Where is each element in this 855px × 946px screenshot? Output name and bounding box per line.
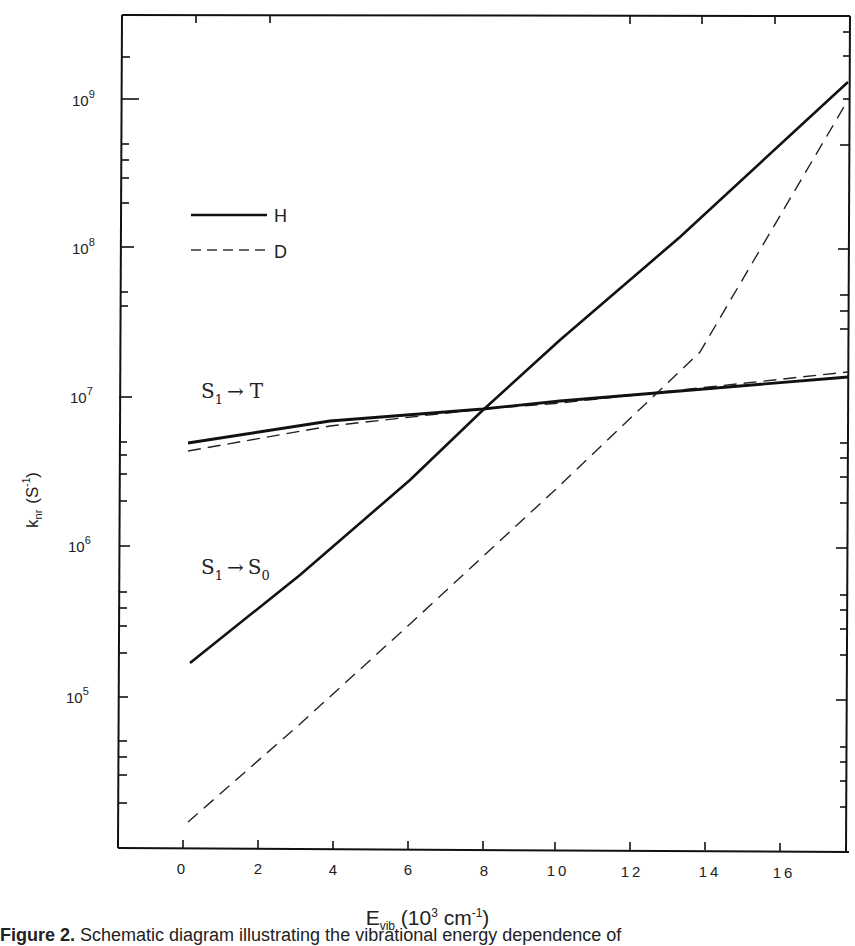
legend-h-label: H (274, 206, 287, 226)
x-tick-label: 2 (254, 860, 262, 877)
y-tick-label: 108 (72, 236, 95, 257)
caption-label: Figure 2. (0, 925, 75, 945)
legend: H D (191, 206, 287, 262)
figure-caption: Figure 2. Schematic diagram illustrating… (0, 925, 855, 946)
x-tick-label: 8 (480, 862, 488, 879)
legend-d-label: D (274, 242, 287, 262)
annotation-s1-s0: S1→S0 (201, 555, 270, 583)
y-tick-label: 105 (66, 685, 89, 706)
y-tick-label: 107 (70, 385, 93, 406)
x-tick-label: 10 (547, 862, 570, 879)
x-tick-label: 4 (329, 861, 337, 878)
x-ticks (183, 15, 780, 851)
x-tick-label: 6 (404, 861, 412, 878)
x-tick-labels: 0 2 4 6 8 10 12 14 16 (177, 860, 796, 881)
y-tick-label: 106 (68, 534, 91, 555)
y-tick-label: 109 (72, 88, 95, 109)
caption-text: Schematic diagram illustrating the vibra… (75, 925, 621, 945)
y-axis-title: knr(S-1) (21, 472, 44, 528)
x-tick-label: 16 (773, 864, 796, 881)
annotation-s1-t: S1→T (201, 379, 264, 407)
x-tick-label: 14 (699, 863, 722, 880)
series-d-s1-s0 (188, 100, 848, 822)
x-tick-label: 12 (621, 863, 644, 880)
series-h-s1-s0 (190, 82, 848, 663)
plot-frame (118, 15, 850, 852)
y-tick-labels: 109 108 107 106 105 (66, 88, 95, 706)
x-tick-label: 0 (177, 860, 185, 877)
